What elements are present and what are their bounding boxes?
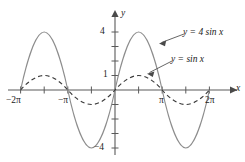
y-tick-label-1: 1 xyxy=(103,70,108,80)
y-axis-label: y xyxy=(121,9,125,19)
sine-comparison-figure: y x 4 1 −4 −2π −π π 2π y = 4 sin x y = s… xyxy=(0,0,245,162)
x-tick-label-pi: π xyxy=(159,96,164,106)
x-tick-label-neg2pi: −2π xyxy=(6,96,21,106)
annotation-leader-4sinx xyxy=(159,34,184,46)
x-axis-group xyxy=(8,86,238,93)
annotation-label-4sinx: y = 4 sin x xyxy=(183,28,223,38)
y-axis-arrowhead xyxy=(111,10,118,17)
annotation-leader-sinx xyxy=(147,61,172,77)
x-tick-label-negpi: −π xyxy=(58,96,68,106)
annotation-label-sinx: y = sin x xyxy=(171,55,204,65)
x-tick-label-2pi: 2π xyxy=(205,96,215,106)
plot-canvas xyxy=(0,0,245,162)
y-tick-label-4: 4 xyxy=(100,27,105,37)
y-tick-label-neg4: −4 xyxy=(94,143,104,153)
x-axis-label: x xyxy=(236,84,240,94)
